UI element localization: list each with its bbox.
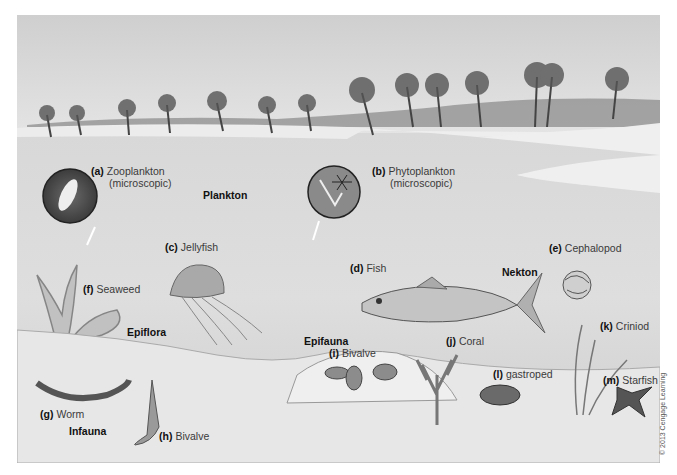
copyright-notice: © 2013 Cengage Learning xyxy=(659,373,666,455)
scene-background xyxy=(17,15,660,463)
label-starfish: (m)Starfish xyxy=(603,374,658,386)
marine-life-illustration: Plankton Nekton Epiflora Epifauna Infaun… xyxy=(17,15,660,463)
label-cephalopod: (e)Cephalopod xyxy=(549,242,621,254)
label-fish: (d)Fish xyxy=(350,262,386,274)
cephalopod xyxy=(563,271,591,299)
label-gastropod: (l)gastroped xyxy=(493,368,553,380)
label-jellyfish: (c)Jellyfish xyxy=(165,241,218,253)
label-crinoid: (k)Criniod xyxy=(600,320,649,332)
label-epifauna-bivalve: (i)Bivalve xyxy=(329,347,376,359)
zone-infauna: Infauna xyxy=(69,425,106,437)
zone-epifauna: Epifauna xyxy=(304,335,348,347)
label-coral: (j)Coral xyxy=(446,335,484,347)
zone-nekton: Nekton xyxy=(502,266,538,278)
label-worm: (g)Worm xyxy=(40,408,84,420)
zone-plankton: Plankton xyxy=(203,189,247,201)
phytoplankton-inset xyxy=(308,166,360,218)
label-seaweed: (f)Seaweed xyxy=(83,283,140,295)
label-zooplankton: (a)Zooplankton(microscopic) xyxy=(91,165,171,189)
zone-epiflora: Epiflora xyxy=(127,326,166,338)
label-infauna-bivalve: (h)Bivalve xyxy=(159,430,209,442)
label-phytoplankton: (b)Phytoplankton(microscopic) xyxy=(372,165,455,189)
gastropod xyxy=(480,385,520,405)
